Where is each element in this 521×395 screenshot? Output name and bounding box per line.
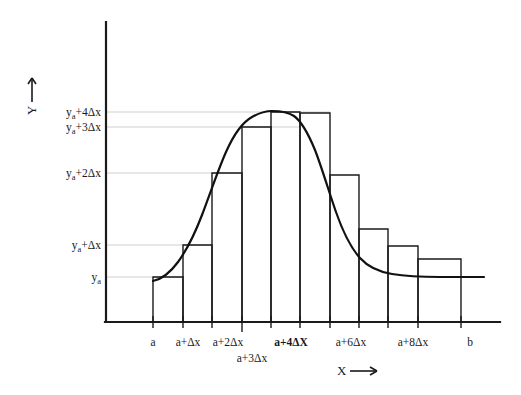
bar-a-plus-4dx	[271, 112, 300, 322]
y-tick-label-ya-plus-2dx: ya+2Δx	[66, 167, 101, 182]
x-axis-title-label: X	[337, 363, 347, 378]
riemann-sum-svg: ya+4Δx ya+3Δx ya+2Δx ya+Δx ya a a+Δx a+2…	[0, 0, 521, 395]
y-tick-label-ya-plus-dx-suffix: +Δx	[81, 239, 101, 251]
bar-a-plus-dx	[183, 245, 212, 322]
bar-a-plus-6dx	[330, 175, 359, 322]
y-tick-label-ya-plus-3dx: ya+3Δx	[66, 121, 101, 136]
x-tick-label-a: a	[150, 336, 155, 348]
x-tick-label-a-plus-2dx: a+2Δx	[213, 336, 244, 348]
y-tick-label-ya: ya	[91, 271, 101, 286]
y-tick-label-ya-subscript: a	[97, 276, 101, 286]
x-axis-ticks-group	[153, 316, 461, 332]
y-tick-labels-group: ya+4Δx ya+3Δx ya+2Δx ya+Δx ya	[66, 106, 101, 286]
y-tick-label-ya-plus-4dx: ya+4Δx	[66, 106, 101, 121]
bar-a	[153, 277, 183, 322]
y-axis-title-label: Y	[24, 105, 39, 115]
y-axis-arrow-icon	[28, 78, 36, 102]
y-tick-label-ya-plus-dx: ya+Δx	[72, 239, 101, 254]
bar-a-plus-8dx	[388, 246, 418, 322]
x-tick-label-a-plus-8dx: a+8Δx	[398, 336, 429, 348]
x-tick-labels-group: a a+Δx a+2Δx a+3Δx a+4ΔX a+6Δx a+8Δx b	[150, 336, 473, 364]
riemann-rectangles-group	[153, 112, 461, 322]
x-tick-label-b: b	[467, 336, 473, 348]
x-axis-title-group: X	[337, 363, 377, 378]
bar-a-plus-2dx	[212, 173, 242, 322]
gridlines-group	[106, 112, 330, 277]
x-tick-label-a-plus-dx: a+Δx	[176, 336, 201, 348]
function-curve	[153, 111, 484, 281]
y-tick-label-ya-plus-4dx-suffix: +4Δx	[76, 106, 102, 118]
bar-a-plus-3dx	[242, 127, 271, 322]
x-tick-label-a-plus-3dx: a+3Δx	[237, 352, 268, 364]
bar-a-plus-7dx	[359, 229, 388, 322]
x-tick-label-a-plus-6dx: a+6Δx	[336, 336, 367, 348]
y-axis-title-group: Y	[24, 78, 39, 115]
bar-a-plus-9dx	[418, 259, 461, 322]
x-axis-arrow-icon	[350, 367, 377, 375]
y-tick-label-ya-plus-3dx-suffix: +3Δx	[76, 121, 102, 133]
y-tick-label-ya-plus-2dx-suffix: +2Δx	[76, 167, 102, 179]
riemann-sum-figure: ya+4Δx ya+3Δx ya+2Δx ya+Δx ya a a+Δx a+2…	[0, 0, 521, 395]
x-tick-label-a-plus-4dx: a+4ΔX	[274, 336, 308, 348]
bar-a-plus-5dx	[300, 113, 330, 322]
